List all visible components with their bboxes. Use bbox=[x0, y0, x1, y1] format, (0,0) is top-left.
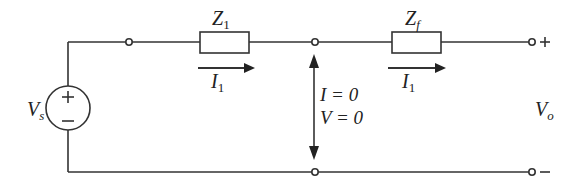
terminal-output-minus bbox=[529, 169, 535, 175]
arrow-down-head-icon bbox=[309, 146, 319, 160]
arrow-up-head-icon bbox=[309, 54, 319, 68]
current-label-2: I1 bbox=[401, 70, 415, 95]
current-arrow-2-head-icon bbox=[435, 63, 446, 73]
node-top-mid bbox=[312, 39, 318, 45]
impedance-zf bbox=[392, 32, 441, 53]
terminal-output-plus bbox=[529, 39, 535, 45]
current-label-1: I1 bbox=[210, 70, 224, 95]
zf-label: Zf bbox=[405, 7, 422, 32]
node-bottom-mid bbox=[312, 169, 318, 175]
output-voltage-label: Vo bbox=[535, 98, 554, 123]
virtual-short-voltage: V = 0 bbox=[320, 107, 364, 128]
z1-label: Z1 bbox=[212, 7, 230, 32]
circuit-diagram: Vs Z1 Zf I1 I1 I = 0 V = 0 Vo bbox=[0, 0, 573, 193]
impedance-z1 bbox=[200, 32, 249, 53]
virtual-short-current: I = 0 bbox=[319, 84, 359, 105]
terminal-input bbox=[126, 39, 132, 45]
source-label: Vs bbox=[27, 98, 44, 123]
current-arrow-1-head-icon bbox=[244, 63, 255, 73]
